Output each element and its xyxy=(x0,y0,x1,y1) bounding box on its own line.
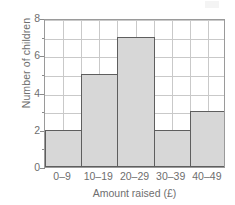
x-axis-tick-label: 30–39 xyxy=(153,170,189,182)
bar-series xyxy=(45,20,224,167)
y-axis-tick-mark xyxy=(40,168,45,169)
y-axis-tick-label: 0 xyxy=(26,162,40,173)
bar-chart-figure: Number of children 02468 0–910–1920–2930… xyxy=(0,0,235,205)
y-axis-tick-labels: 02468 xyxy=(24,0,40,205)
y-axis-tick-label: 6 xyxy=(26,50,40,61)
x-axis-tick-label: 10–19 xyxy=(80,170,116,182)
x-axis-tick-label: 20–29 xyxy=(116,170,152,182)
y-axis-tick-label: 4 xyxy=(26,88,40,99)
bar xyxy=(154,130,191,167)
bar xyxy=(45,130,82,167)
y-axis-tick-label: 2 xyxy=(26,125,40,136)
x-axis-tick-label: 40–49 xyxy=(189,170,225,182)
plot-area xyxy=(44,19,225,168)
y-axis-tick-label: 8 xyxy=(26,13,40,24)
bar xyxy=(117,37,154,167)
bar xyxy=(81,74,118,167)
x-axis-title: Amount raised (£) xyxy=(44,187,225,199)
bar xyxy=(190,111,225,167)
page-edge-artifact xyxy=(205,1,219,8)
x-axis-tick-label: 0–9 xyxy=(44,170,80,182)
x-axis-tick-labels: 0–910–1920–2930–3940–49 xyxy=(44,170,225,184)
